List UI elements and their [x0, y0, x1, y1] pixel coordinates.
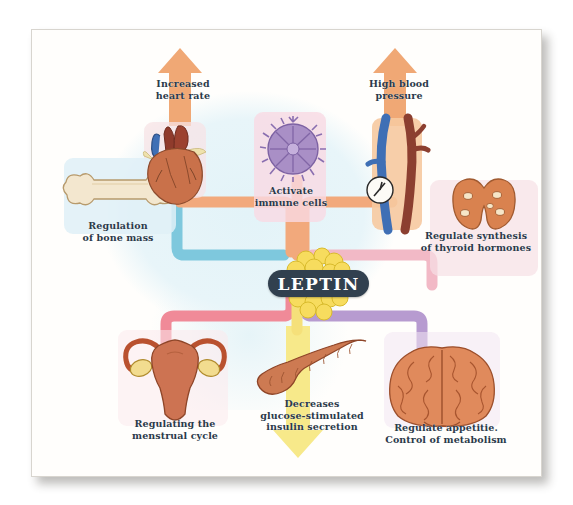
- heart-icon: [140, 122, 214, 208]
- brain-icon: [384, 344, 500, 428]
- label-heart: Increased heart rate: [136, 78, 230, 101]
- immune-cell-icon: [260, 116, 326, 182]
- diagram-canvas: LEPTIN Regulation of bone mass Increased…: [0, 0, 573, 505]
- label-pancreas: Decreases glucose-stimulated insulin sec…: [232, 398, 392, 433]
- pancreas-icon: [254, 336, 370, 402]
- label-brain: Regulate appetitie. Control of metabolis…: [376, 422, 516, 445]
- scanned-page-card: LEPTIN Regulation of bone mass Increased…: [31, 29, 542, 477]
- leptin-label: LEPTIN: [277, 274, 359, 294]
- blood-vessel-icon: [366, 116, 432, 232]
- label-immune: Activate immune cells: [238, 185, 344, 208]
- label-blood-pressure: High blood pressure: [352, 78, 446, 101]
- thyroid-icon: [450, 176, 518, 234]
- leptin-center-badge: LEPTIN: [268, 270, 369, 297]
- label-thyroid: Regulate synthesis of thyroid hormones: [412, 230, 540, 253]
- label-bone: Regulation of bone mass: [54, 220, 182, 243]
- label-uterus: Regulating the menstrual cycle: [110, 418, 240, 441]
- uterus-icon: [114, 330, 236, 420]
